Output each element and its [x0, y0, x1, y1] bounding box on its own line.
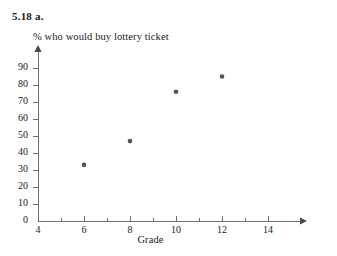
- y-tick-label: 10: [6, 197, 28, 208]
- x-tick-label: 10: [165, 224, 187, 235]
- x-tick-label: 14: [257, 224, 279, 235]
- data-points-group: [82, 74, 225, 167]
- data-point: [128, 139, 133, 144]
- ticks-group: [33, 68, 268, 221]
- y-tick-label: 20: [6, 180, 28, 191]
- y-tick-label: 30: [6, 163, 28, 174]
- y-tick-label: 50: [6, 129, 28, 140]
- data-point: [82, 163, 87, 168]
- x-tick-label: 6: [73, 224, 95, 235]
- figure-container: 5.18 a. % who would buy lottery ticket G…: [0, 0, 337, 256]
- y-tick-label: 0: [6, 214, 28, 225]
- y-tick-label: 40: [6, 146, 28, 157]
- y-tick-label: 60: [6, 112, 28, 123]
- data-point: [174, 90, 179, 95]
- y-axis-arrowhead: [34, 45, 41, 52]
- x-tick-label: 4: [27, 224, 49, 235]
- axes-group: [34, 45, 307, 225]
- y-tick-label: 90: [6, 61, 28, 72]
- y-tick-label: 80: [6, 78, 28, 89]
- y-tick-label: 70: [6, 95, 28, 106]
- scatter-plot: [0, 0, 337, 256]
- x-tick-label: 8: [119, 224, 141, 235]
- data-point: [220, 74, 225, 79]
- x-axis-arrowhead: [300, 217, 307, 224]
- x-tick-label: 12: [211, 224, 233, 235]
